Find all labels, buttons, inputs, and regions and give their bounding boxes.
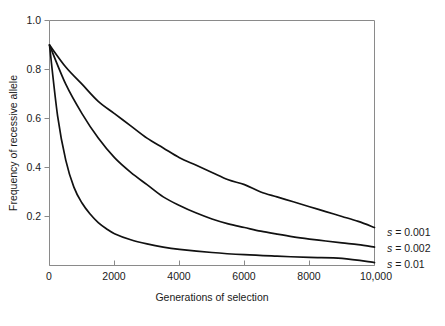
y-tick-label: 0.4 (26, 161, 41, 173)
series-label-value: = 0.01 (392, 258, 425, 270)
y-tick-label: 1.0 (26, 14, 41, 26)
x-tick-label: 2000 (102, 270, 126, 282)
y-tick-label: 0.6 (26, 112, 41, 124)
series-labels: s = 0.001 s = 0.002 s = 0.01 (387, 226, 431, 270)
figure-container: 1.0 0.8 0.6 0.4 0.2 0 2000 4000 6000 800… (0, 0, 445, 326)
x-axis-title: Generations of selection (155, 291, 268, 303)
x-tick-label: 4000 (167, 270, 191, 282)
series-label-value: = 0.002 (392, 242, 430, 254)
y-tick-label: 0.8 (26, 63, 41, 75)
x-tick-label: 6000 (232, 270, 256, 282)
x-tick-label: 8000 (297, 270, 321, 282)
chart-svg: 1.0 0.8 0.6 0.4 0.2 0 2000 4000 6000 800… (0, 0, 445, 326)
series-label-s-0-01: s = 0.01 (387, 258, 425, 270)
series-label-value: = 0.001 (392, 226, 430, 238)
series-label-s-0-001: s = 0.001 (387, 226, 431, 238)
y-tick-label: 0.2 (26, 210, 41, 222)
x-tick-label: 10,000 (360, 270, 392, 282)
series-label-s-0-002: s = 0.002 (387, 242, 431, 254)
x-tick-label: 0 (46, 270, 52, 282)
y-axis-title: Frequency of recessive allele (7, 75, 19, 211)
